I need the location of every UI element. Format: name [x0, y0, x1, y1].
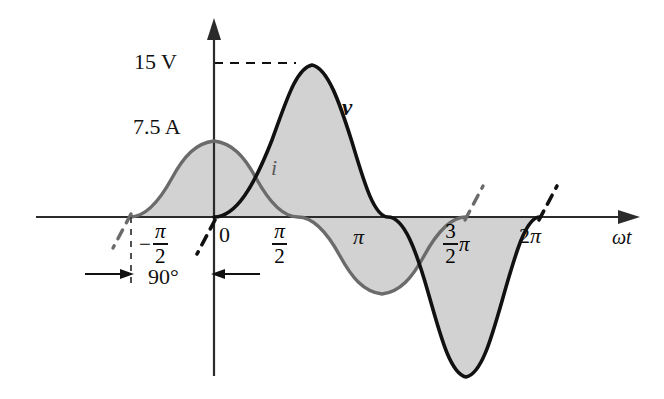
- three-pi-over-2-tick-label: 3 2 π: [443, 221, 470, 268]
- neg-pi-over-2-tick-label: − π 2: [139, 221, 168, 268]
- x-axis-arrowhead: [618, 210, 640, 224]
- three-halves-numerator: 3: [443, 221, 458, 242]
- neg-pi-over-2-numerator: π: [153, 221, 168, 242]
- two-pi-symbol: π: [530, 223, 541, 248]
- neg-pi-over-2-denominator: 2: [153, 246, 168, 267]
- figure-canvas: 15 V 7.5 A v i 0 π 2π ωt 90° − π 2 π 2 3…: [0, 0, 664, 399]
- pi-tick-label: π: [353, 226, 364, 248]
- two-pi-number: 2: [519, 223, 530, 248]
- waveform-plot: [0, 0, 664, 399]
- minus-sign: −: [139, 232, 151, 257]
- i-curve-label: i: [271, 157, 277, 179]
- pi-over-2-tick-label: π 2: [272, 221, 287, 268]
- pi-over-2-numerator: π: [272, 221, 287, 242]
- two-pi-tick-label: 2π: [519, 225, 541, 247]
- y-axis-arrowhead: [207, 18, 221, 40]
- origin-tick-label: 0: [219, 224, 230, 246]
- phase-angle-label: 90°: [148, 266, 179, 288]
- three-pi-over-2-symbol: π: [459, 232, 470, 257]
- pi-over-2-denominator: 2: [272, 246, 287, 267]
- v-curve-label: v: [342, 96, 352, 119]
- peak-current-label: 7.5 A: [133, 116, 181, 138]
- x-axis-label: ωt: [612, 227, 632, 247]
- peak-voltage-label: 15 V: [134, 51, 177, 73]
- three-halves-denominator: 2: [443, 246, 458, 267]
